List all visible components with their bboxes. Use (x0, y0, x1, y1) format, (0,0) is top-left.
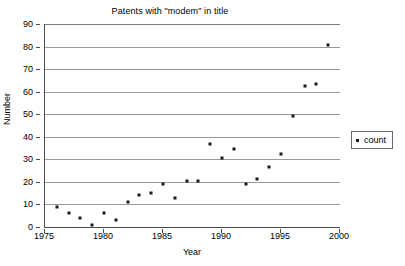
data-point (55, 205, 58, 208)
y-tick-label: 10 (23, 199, 33, 209)
data-point (126, 201, 129, 204)
y-tick-label: 70 (23, 64, 33, 74)
y-tick-mark (36, 227, 40, 228)
x-tick-mark (339, 229, 340, 233)
data-point (291, 115, 294, 118)
y-tick-mark (36, 114, 40, 115)
data-point (197, 179, 200, 182)
y-tick-mark (36, 159, 40, 160)
data-point (114, 219, 117, 222)
gridline (45, 204, 340, 205)
data-point (209, 142, 212, 145)
data-point (303, 85, 306, 88)
x-tick-mark (44, 229, 45, 233)
y-tick-label: 90 (23, 19, 33, 29)
gridline (45, 159, 340, 160)
x-tick-mark (280, 229, 281, 233)
data-point (268, 166, 271, 169)
y-tick-mark (36, 182, 40, 183)
y-tick-label: 40 (23, 132, 33, 142)
gridline (45, 182, 340, 183)
y-tick-mark (36, 137, 40, 138)
chart-legend: count (351, 131, 393, 149)
x-axis: 197519801985199019952000 (44, 229, 340, 245)
data-point (138, 194, 141, 197)
y-axis-title: Number (2, 79, 12, 139)
x-axis-title: Year (44, 247, 340, 257)
data-point (315, 82, 318, 85)
gridline (45, 47, 340, 48)
legend-entry-label: count (364, 135, 386, 145)
y-tick-label: 30 (23, 154, 33, 164)
y-tick-mark (36, 69, 40, 70)
data-point (232, 148, 235, 151)
y-tick-mark (36, 24, 40, 25)
gridline (45, 24, 340, 25)
y-tick-label: 80 (23, 42, 33, 52)
data-point (327, 44, 330, 47)
y-tick-label: 50 (23, 109, 33, 119)
y-tick-mark (36, 92, 40, 93)
data-point (185, 179, 188, 182)
legend-marker-icon (356, 139, 359, 142)
data-point (221, 157, 224, 160)
data-point (91, 223, 94, 226)
y-tick-label: 20 (23, 177, 33, 187)
y-tick-label: 60 (23, 87, 33, 97)
data-point (162, 183, 165, 186)
data-point (256, 177, 259, 180)
data-point (150, 192, 153, 195)
y-tick-label: 0 (28, 222, 33, 232)
data-point (67, 212, 70, 215)
x-tick-mark (162, 229, 163, 233)
x-tick-mark (221, 229, 222, 233)
data-point (280, 152, 283, 155)
scatter-chart: Patents with "modem" in title 0102030405… (0, 0, 405, 266)
gridline (45, 92, 340, 93)
plot-area (44, 24, 340, 228)
y-tick-mark (36, 204, 40, 205)
data-point (103, 212, 106, 215)
gridline (45, 114, 340, 115)
chart-title: Patents with "modem" in title (0, 6, 340, 16)
data-point (173, 196, 176, 199)
gridline (45, 69, 340, 70)
data-point (244, 183, 247, 186)
x-tick-mark (103, 229, 104, 233)
data-point (79, 216, 82, 219)
y-tick-mark (36, 47, 40, 48)
gridline (45, 137, 340, 138)
